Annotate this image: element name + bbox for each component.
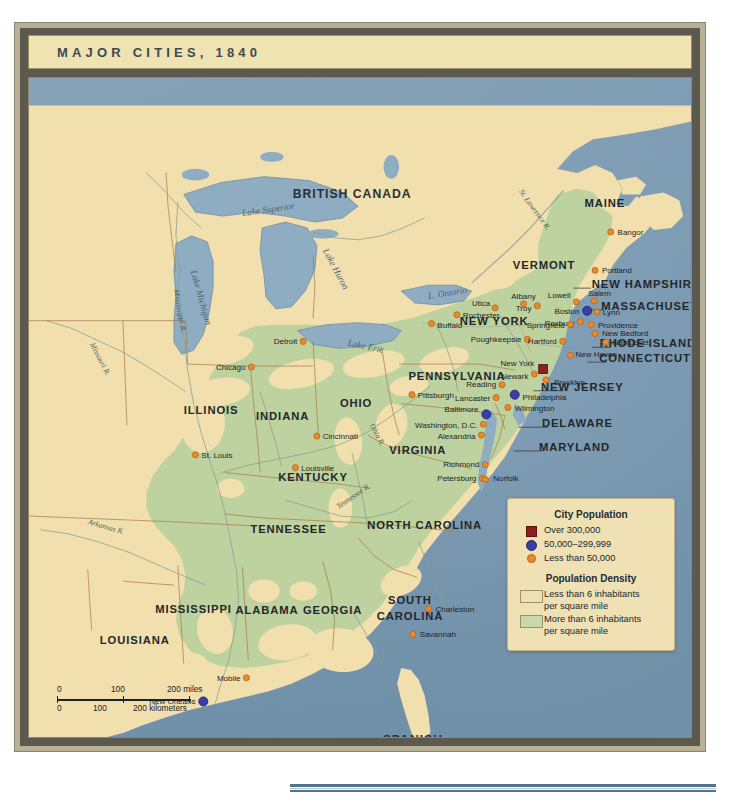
legend-row-over-300000: Over 300,000	[518, 525, 664, 537]
city-marker-circle-orange[interactable]	[426, 606, 432, 612]
city-marker-circle-orange[interactable]	[594, 309, 600, 315]
rule-line-bottom	[290, 790, 716, 793]
city-marker-square-maroon[interactable]	[539, 365, 548, 374]
scale-tick-c	[189, 696, 190, 703]
legend-row-less-than-50000: Less than 50,000	[518, 553, 664, 564]
legend-row-50000-299999: 50,000–299,999	[518, 539, 664, 551]
small-lake-n2	[384, 155, 400, 179]
map-page: MAJOR CITIES, 1840	[0, 0, 732, 798]
city-marker-circle-orange[interactable]	[577, 319, 583, 325]
legend-swatch-cell	[518, 614, 544, 628]
scale-line	[57, 696, 247, 703]
city-marker-circle-orange[interactable]	[482, 462, 488, 468]
scale-km-tick-100: 100	[93, 703, 107, 713]
city-marker-circle-orange[interactable]	[243, 675, 249, 681]
city-marker-circle-orange[interactable]	[493, 395, 499, 401]
pocket-13	[289, 581, 316, 601]
map-scale-bar: 0 100 200 miles 0 100 200 kilometers	[57, 684, 247, 715]
city-marker-circle-orange[interactable]	[531, 371, 537, 377]
scale-miles-tick-100: 100	[111, 684, 125, 694]
city-marker-circle-orange[interactable]	[480, 421, 486, 427]
legend-row-density-low: Less than 6 inhabitants per square mile	[518, 589, 664, 612]
city-marker-circle-orange[interactable]	[292, 465, 298, 471]
page-title: MAJOR CITIES, 1840	[57, 45, 261, 60]
city-marker-circle-orange[interactable]	[300, 338, 306, 344]
city-marker-circle-blue[interactable]	[482, 410, 491, 419]
legend-label-density-high: More than 6 inhabitants per square mile	[544, 614, 641, 637]
legend-swatch-cell	[518, 589, 544, 603]
box-green-icon	[520, 615, 543, 628]
city-marker-circle-orange[interactable]	[592, 330, 598, 336]
city-marker-circle-orange[interactable]	[482, 476, 488, 482]
box-tan-icon	[520, 590, 543, 603]
pocket-18	[217, 479, 244, 499]
scale-miles-row: 0 100 200 miles	[57, 684, 247, 696]
legend-swatch-cell	[518, 553, 544, 563]
city-marker-circle-orange[interactable]	[410, 631, 416, 637]
map-canvas[interactable]: BRITISH CANADA SPANISH FLORIDA MAINE VER…	[28, 77, 692, 738]
legend-label-less-than-50000: Less than 50,000	[544, 553, 615, 564]
pocket-12	[248, 579, 279, 603]
city-marker-circle-orange[interactable]	[248, 364, 254, 370]
scale-miles-unit: 200 miles	[167, 684, 203, 694]
city-marker-circle-orange[interactable]	[454, 312, 460, 318]
legend-label-density-high-line2: per square mile	[544, 626, 641, 637]
map-plate-inner: MAJOR CITIES, 1840	[20, 28, 700, 746]
city-marker-circle-orange[interactable]	[608, 229, 614, 235]
small-lake-nw	[182, 169, 209, 181]
bottom-decorative-rule	[290, 784, 716, 792]
legend-label-density-high-line1: More than 6 inhabitants	[544, 614, 641, 625]
city-marker-circle-orange[interactable]	[603, 339, 609, 345]
legend-title-city-population: City Population	[518, 509, 664, 520]
city-marker-circle-orange[interactable]	[478, 432, 484, 438]
scale-km-row: 0 100 200 kilometers	[57, 703, 247, 715]
scale-km-tick-0: 0	[57, 703, 62, 713]
small-lake-n1	[260, 152, 284, 162]
city-marker-circle-blue[interactable]	[510, 390, 519, 399]
square-maroon-icon	[526, 526, 537, 537]
city-marker-circle-orange[interactable]	[524, 336, 530, 342]
rule-line-top	[290, 784, 716, 787]
city-marker-circle-orange[interactable]	[521, 301, 527, 307]
city-marker-circle-orange[interactable]	[492, 305, 498, 311]
map-legend: City Population Over 300,000 50,000–299,…	[507, 498, 675, 651]
city-marker-circle-orange[interactable]	[592, 267, 598, 273]
pocket-17	[166, 652, 209, 680]
legend-label-density-low-line1: Less than 6 inhabitants	[544, 589, 640, 600]
scale-tick-a	[57, 696, 58, 703]
city-marker-circle-orange[interactable]	[543, 377, 549, 383]
city-marker-circle-orange[interactable]	[588, 322, 594, 328]
legend-row-density-high: More than 6 inhabitants per square mile	[518, 614, 664, 637]
circle-orange-icon	[527, 554, 536, 563]
legend-title-population-density: Population Density	[518, 573, 664, 584]
title-banner: MAJOR CITIES, 1840	[28, 35, 692, 69]
city-marker-circle-orange[interactable]	[573, 299, 579, 305]
circle-blue-icon	[526, 540, 537, 551]
scale-miles-tick-0: 0	[57, 684, 62, 694]
city-marker-circle-orange[interactable]	[505, 404, 511, 410]
map-plate: MAJOR CITIES, 1840	[14, 22, 706, 752]
scale-tick-b	[123, 696, 124, 703]
city-marker-circle-orange[interactable]	[568, 352, 574, 358]
legend-label-density-low-line2: per square mile	[544, 601, 640, 612]
legend-label-density-low: Less than 6 inhabitants per square mile	[544, 589, 640, 612]
city-marker-circle-orange[interactable]	[428, 321, 434, 327]
city-marker-circle-orange[interactable]	[409, 392, 415, 398]
scale-km-unit: 200 kilometers	[133, 703, 187, 713]
legend-swatch-cell	[518, 525, 544, 537]
rule-line-mid	[290, 788, 716, 789]
city-marker-circle-orange[interactable]	[591, 298, 597, 304]
legend-label-over-300000: Over 300,000	[544, 525, 600, 536]
city-marker-circle-orange[interactable]	[314, 433, 320, 439]
city-marker-circle-blue[interactable]	[583, 306, 592, 315]
city-marker-circle-orange[interactable]	[499, 382, 505, 388]
city-marker-circle-orange[interactable]	[560, 338, 566, 344]
city-marker-circle-orange[interactable]	[534, 303, 540, 309]
legend-label-50000-299999: 50,000–299,999	[544, 539, 611, 550]
legend-swatch-cell	[518, 539, 544, 551]
city-marker-circle-orange[interactable]	[192, 452, 198, 458]
city-marker-circle-orange[interactable]	[568, 322, 574, 328]
